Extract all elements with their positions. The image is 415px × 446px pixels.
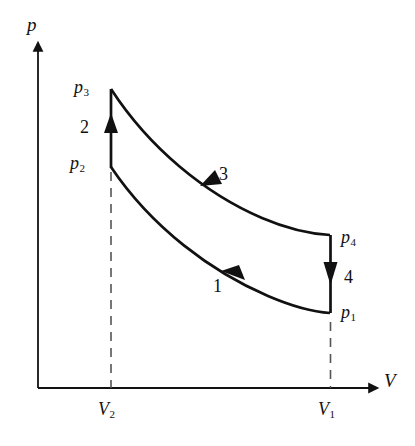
pv-diagram-figure: p V p3 p2 p4 p1 V2 V1 2 3 1 4 bbox=[0, 0, 415, 446]
pressure-label-p4-sub: 4 bbox=[351, 236, 357, 248]
y-axis-label: p bbox=[27, 15, 37, 34]
pressure-label-p2: p2 bbox=[70, 154, 85, 172]
pressure-label-p1: p1 bbox=[341, 303, 356, 321]
process-label-2: 2 bbox=[80, 118, 89, 136]
volume-label-v1-sub: 1 bbox=[330, 408, 336, 420]
volume-label-v1: V1 bbox=[318, 400, 335, 418]
volume-label-v2-sub: 2 bbox=[110, 408, 116, 420]
process-label-4: 4 bbox=[344, 268, 353, 286]
process-3-upper-isotherm-curve bbox=[111, 89, 330, 235]
pressure-label-p1-sub: 1 bbox=[351, 311, 357, 323]
volume-label-v2-base: V bbox=[98, 399, 109, 419]
pressure-label-p2-sub: 2 bbox=[80, 162, 86, 174]
volume-label-v2: V2 bbox=[98, 400, 115, 418]
pressure-label-p2-base: p bbox=[70, 153, 79, 173]
process-2-up-arrowhead bbox=[104, 113, 118, 133]
pressure-label-p3-base: p bbox=[74, 77, 83, 97]
pressure-label-p1-base: p bbox=[341, 302, 350, 322]
volume-label-v1-base: V bbox=[318, 399, 329, 419]
process-label-1: 1 bbox=[213, 277, 222, 295]
pressure-label-p4-base: p bbox=[341, 227, 350, 247]
pv-diagram-canvas bbox=[0, 0, 415, 446]
pressure-label-p3-sub: 3 bbox=[84, 86, 90, 98]
pressure-label-p4: p4 bbox=[341, 228, 356, 246]
process-label-3: 3 bbox=[219, 165, 228, 183]
direction-arrowhead-group bbox=[104, 113, 338, 285]
pressure-label-p3: p3 bbox=[74, 78, 89, 96]
x-axis-label: V bbox=[384, 371, 396, 390]
process-4-down-arrowhead bbox=[324, 262, 338, 285]
axis-group bbox=[38, 50, 370, 388]
